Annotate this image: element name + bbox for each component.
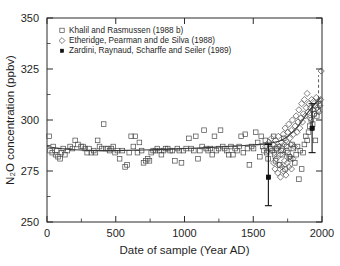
x-axis-tick-label: 1000 <box>172 227 196 239</box>
x-axis-tick-label: 2000 <box>310 227 334 239</box>
legend-label: Etheridge, Pearman and de Silva (1988) <box>69 36 215 45</box>
legend-marker-filled-square <box>60 49 63 52</box>
legend-item: Zardini, Raynaud, Scharffe and Seiler (1… <box>60 46 231 55</box>
y-axis-tick-label: 275 <box>21 165 39 177</box>
legend-item: Khalil and Rasmussen (1988 b) <box>60 26 184 35</box>
error-bar-center-point <box>310 126 314 130</box>
legend-label: Khalil and Rasmussen (1988 b) <box>69 26 184 35</box>
y-axis-tick-label: 325 <box>21 63 39 75</box>
legend-label: Zardini, Raynaud, Scharffe and Seiler (1… <box>69 46 232 55</box>
legend-item: Etheridge, Pearman and de Silva (1988) <box>59 36 215 45</box>
chart-figure: 2502753003253500500100015002000Date of s… <box>0 0 340 266</box>
x-axis-tick-label: 500 <box>107 227 125 239</box>
x-axis-tick-label: 0 <box>44 227 50 239</box>
error-bar-center-point <box>266 175 270 179</box>
x-axis-tick-label: 1500 <box>241 227 265 239</box>
y-axis-tick-label: 250 <box>21 216 39 228</box>
y-axis-tick-label: 300 <box>21 114 39 126</box>
y-axis-title: N₂O concentration (ppbv) <box>4 55 16 185</box>
n2o-concentration-scatter-chart: 2502753003253500500100015002000Date of s… <box>0 0 340 266</box>
y-axis-tick-label: 350 <box>21 12 39 24</box>
x-axis-title: Date of sample (Year AD) <box>120 244 250 256</box>
